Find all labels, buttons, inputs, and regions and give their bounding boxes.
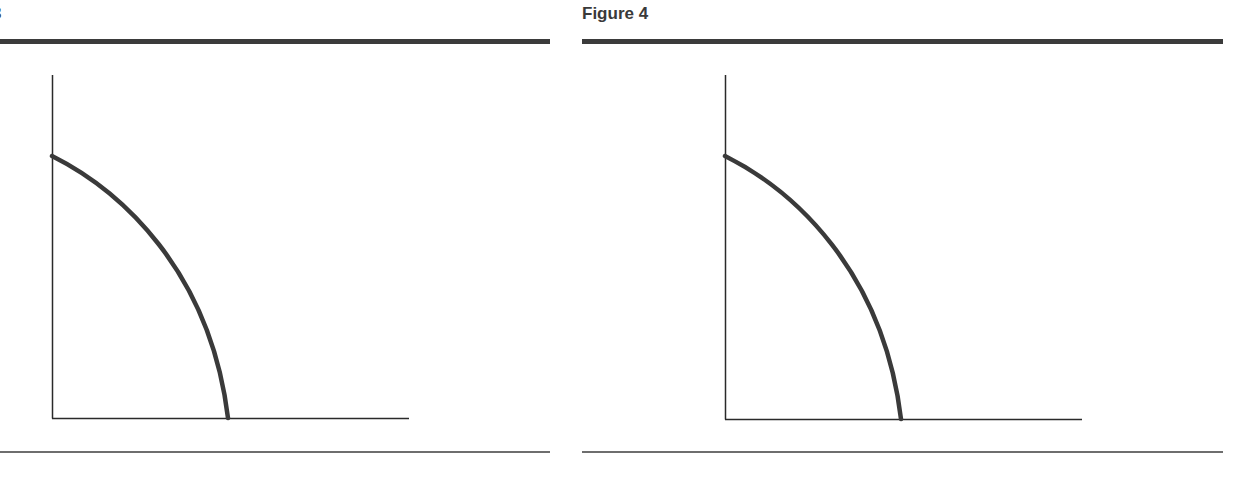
figure-4-panel: Figure 4 — [582, 0, 1251, 477]
figure-3-plot — [0, 0, 560, 477]
figure-4-plot — [582, 0, 1251, 477]
figure-3-bottom-rule — [0, 451, 550, 453]
figure-4-bottom-rule — [582, 451, 1223, 453]
frontier-curve — [52, 156, 228, 418]
frontier-curve — [725, 156, 901, 419]
figure-3-panel: 3 — [0, 0, 560, 477]
